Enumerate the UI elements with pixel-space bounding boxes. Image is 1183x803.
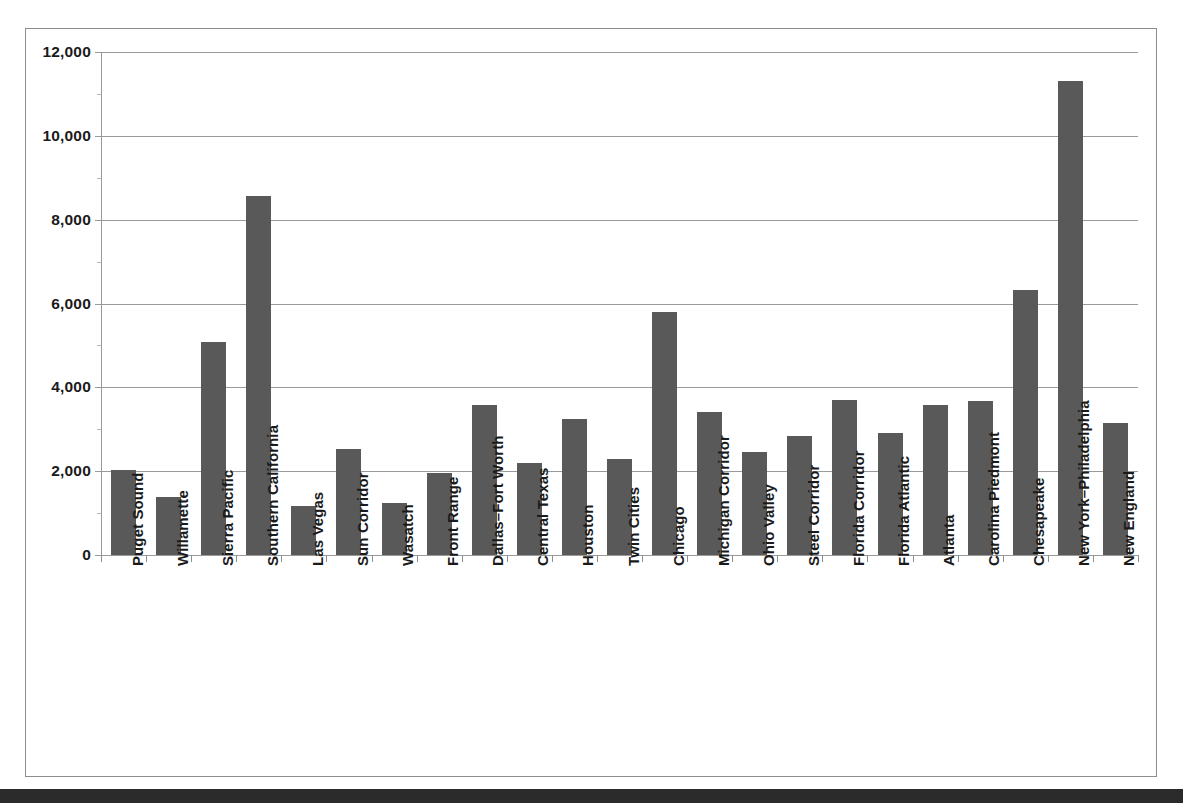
- x-axis-category-label: Ohio Valley: [761, 484, 776, 566]
- x-axis-category-label: Chicago: [671, 506, 686, 566]
- x-axis-tick: [1048, 555, 1049, 562]
- x-axis-category-label: Front Range: [445, 477, 460, 566]
- x-axis-category-label: Las Vegas: [310, 492, 325, 566]
- x-axis-category-label: Wasatch: [400, 504, 415, 566]
- x-axis-tick: [642, 555, 643, 562]
- x-axis-tick: [462, 555, 463, 562]
- x-axis-tick: [958, 555, 959, 562]
- y-axis-tick-label: 10,000: [42, 128, 91, 144]
- x-axis-ticks: [101, 555, 1138, 563]
- x-axis-category-label: Florida Atlantic: [896, 456, 911, 566]
- x-axis-category-label: Chesapeake: [1031, 477, 1046, 566]
- x-axis-tick: [191, 555, 192, 562]
- x-axis-category-label: New York–Philadelphia: [1076, 400, 1091, 566]
- x-axis-category-label: Central Texas: [535, 467, 550, 566]
- y-axis-tick-label: 6,000: [51, 296, 91, 312]
- x-axis-category-label: Dallas–Fort Worth: [490, 435, 505, 566]
- x-axis-tick: [867, 555, 868, 562]
- x-axis-tick: [236, 555, 237, 562]
- y-axis-tick-label: 4,000: [51, 379, 91, 395]
- x-axis-category-label: Carolina Piedmont: [986, 432, 1001, 566]
- x-axis-tick: [281, 555, 282, 562]
- x-axis-tick: [326, 555, 327, 562]
- scan-edge-band: [0, 789, 1183, 803]
- x-axis-tick: [417, 555, 418, 562]
- x-axis-category-label: New England: [1121, 471, 1136, 566]
- x-axis-tick: [507, 555, 508, 562]
- x-axis-category-label: Michigan Corridor: [716, 435, 731, 566]
- x-axis-tick: [732, 555, 733, 562]
- x-axis-category-label: Steel Corridor: [806, 465, 821, 566]
- x-axis-tick: [687, 555, 688, 562]
- x-axis-labels: Puget SoundWillametteSierra PacificSouth…: [101, 566, 1138, 766]
- x-axis-tick: [146, 555, 147, 562]
- x-axis-category-label: Southern California: [265, 425, 280, 566]
- x-axis-tick: [597, 555, 598, 562]
- x-axis-category-label: Sun Corridor: [355, 472, 370, 566]
- y-axis-tick-label: 0: [82, 547, 91, 563]
- x-axis-tick: [1093, 555, 1094, 562]
- plot-area: [101, 52, 1138, 555]
- x-axis-tick: [1138, 555, 1139, 562]
- bar-chart: 02,0004,0006,0008,00010,00012,000 Puget …: [0, 0, 1183, 803]
- x-axis-tick: [552, 555, 553, 562]
- x-axis-category-label: Willamette: [175, 490, 190, 566]
- x-axis-category-label: Sierra Pacific: [220, 470, 235, 566]
- y-axis-tick-label: 12,000: [42, 44, 91, 60]
- x-axis-category-label: Florida Corridor: [851, 450, 866, 566]
- x-axis-tick: [372, 555, 373, 562]
- x-axis-tick: [913, 555, 914, 562]
- x-axis-tick: [777, 555, 778, 562]
- y-axis-tick-label: 8,000: [51, 212, 91, 228]
- x-axis-tick: [1003, 555, 1004, 562]
- x-axis-category-label: Atlanta: [941, 514, 956, 566]
- x-axis-tick: [101, 555, 102, 562]
- x-axis-category-label: Twin Cities: [626, 487, 641, 566]
- y-axis-tick-label: 2,000: [51, 463, 91, 479]
- x-axis-category-label: Puget Sound: [130, 472, 145, 566]
- x-axis-tick: [822, 555, 823, 562]
- x-axis-category-label: Houston: [580, 504, 595, 566]
